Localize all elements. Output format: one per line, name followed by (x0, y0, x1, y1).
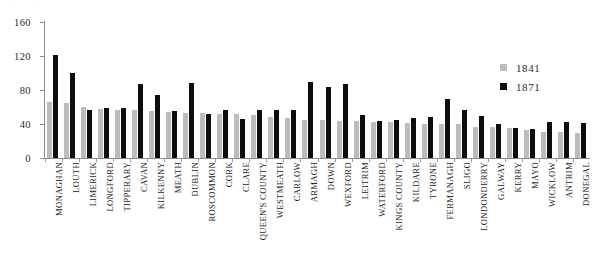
bar-1841[interactable] (47, 102, 52, 158)
bar-1841[interactable] (422, 124, 427, 158)
bar-1871[interactable] (513, 128, 518, 158)
bar-group (285, 22, 300, 158)
x-axis-label: KERRY (514, 162, 523, 192)
bar-1871[interactable] (377, 121, 382, 158)
bar-1871[interactable] (496, 124, 501, 158)
bar-1841[interactable] (200, 113, 205, 158)
bar-1871[interactable] (189, 83, 194, 158)
bar-1841[interactable] (302, 120, 307, 158)
bar-1871[interactable] (581, 123, 586, 158)
bar-1871[interactable] (70, 73, 75, 158)
bar-group (149, 22, 164, 158)
bar-1871[interactable] (121, 108, 126, 158)
bar-1871[interactable] (479, 116, 484, 158)
bar-1871[interactable] (291, 110, 296, 158)
bar-group (132, 22, 147, 158)
bar-1841[interactable] (371, 122, 376, 158)
bar-1871[interactable] (104, 108, 109, 158)
bar-1841[interactable] (354, 121, 359, 158)
bar-1871[interactable] (564, 122, 569, 158)
bar-1841[interactable] (149, 111, 154, 158)
bar-1871[interactable] (547, 122, 552, 158)
bar-1871[interactable] (326, 87, 331, 158)
bar-1841[interactable] (81, 107, 86, 158)
y-axis-tick-label: 0 (0, 153, 40, 164)
x-axis-label: ROSCOMMON (208, 162, 217, 222)
x-axis-label: MAYO (531, 162, 540, 189)
x-axis-label: GALWAY (497, 162, 506, 200)
bar-1841[interactable] (524, 130, 529, 158)
bar-group (473, 22, 488, 158)
x-axis-label: TIPPERARY (123, 162, 132, 211)
bar-1841[interactable] (337, 121, 342, 158)
bar-1841[interactable] (473, 127, 478, 158)
bar-1871[interactable] (172, 111, 177, 158)
bar-1841[interactable] (115, 110, 120, 158)
x-axis-label: DONEGAL (582, 162, 591, 206)
x-axis-label: ARMAGH (310, 162, 319, 202)
bar-1871[interactable] (206, 114, 211, 158)
y-axis-tick-label: 160 (0, 17, 40, 28)
bar-group (439, 22, 454, 158)
legend-label-1871: 1871 (516, 81, 540, 93)
x-axis-label: LONDONDERRY (480, 162, 489, 231)
bar-1871[interactable] (87, 110, 92, 158)
bar-1841[interactable] (217, 114, 222, 158)
bar-1841[interactable] (64, 103, 69, 158)
bar-1841[interactable] (98, 109, 103, 158)
bar-1841[interactable] (320, 120, 325, 158)
bar-1871[interactable] (428, 117, 433, 158)
bar-1871[interactable] (257, 110, 262, 158)
bar-1841[interactable] (251, 115, 256, 158)
bar-1841[interactable] (575, 133, 580, 158)
bar-1871[interactable] (240, 119, 245, 158)
bar-1871[interactable] (155, 95, 160, 158)
legend-item-1871[interactable]: 1871 (500, 77, 596, 96)
bar-1841[interactable] (456, 124, 461, 158)
bar-1871[interactable] (53, 55, 58, 158)
bar-1841[interactable] (132, 110, 137, 158)
x-axis-label: CARLOW (293, 162, 302, 201)
x-axis-label: LOUTH (72, 162, 81, 193)
bar-group (234, 22, 249, 158)
bar-1871[interactable] (223, 110, 228, 158)
x-axis-label: LIMERICK (89, 162, 98, 206)
bar-1871[interactable] (308, 82, 313, 159)
bar-1871[interactable] (343, 84, 348, 158)
x-axis-label: TYRONE (429, 162, 438, 199)
bar-group (302, 22, 317, 158)
x-axis-label: WESTMEATH (276, 162, 285, 218)
bar-1841[interactable] (405, 123, 410, 158)
bar-1841[interactable] (490, 127, 495, 158)
legend-item-1841[interactable]: 1841 (500, 58, 596, 77)
bar-1841[interactable] (183, 113, 188, 158)
bar-1871[interactable] (530, 129, 535, 158)
bar-1871[interactable] (274, 110, 279, 158)
bar-1841[interactable] (507, 128, 512, 158)
bar-1871[interactable] (360, 115, 365, 158)
bar-1871[interactable] (411, 118, 416, 158)
bar-1841[interactable] (439, 124, 444, 158)
x-axis-label: WICKLOW (548, 162, 557, 207)
bar-1871[interactable] (138, 84, 143, 158)
bar-group (456, 22, 471, 158)
y-axis-tick-label: 40 (0, 119, 40, 130)
bar-1871[interactable] (394, 120, 399, 158)
bar-1841[interactable] (541, 132, 546, 158)
bar-group (354, 22, 369, 158)
bar-1841[interactable] (558, 132, 563, 158)
bar-1871[interactable] (445, 99, 450, 159)
x-axis-label: LONGFORD (106, 162, 115, 212)
clipped-text-strip: · · · (0, 0, 604, 12)
bar-1841[interactable] (388, 122, 393, 158)
bar-group (47, 22, 62, 158)
y-axis-tick-label: 80 (0, 85, 40, 96)
bar-group (371, 22, 386, 158)
bar-group (320, 22, 335, 158)
bar-1841[interactable] (166, 112, 171, 158)
bar-1841[interactable] (268, 117, 273, 158)
bar-1841[interactable] (285, 118, 290, 158)
bar-1871[interactable] (462, 110, 467, 158)
bar-1841[interactable] (234, 114, 239, 158)
x-axis-label: KINGS COUNTY (395, 162, 404, 230)
